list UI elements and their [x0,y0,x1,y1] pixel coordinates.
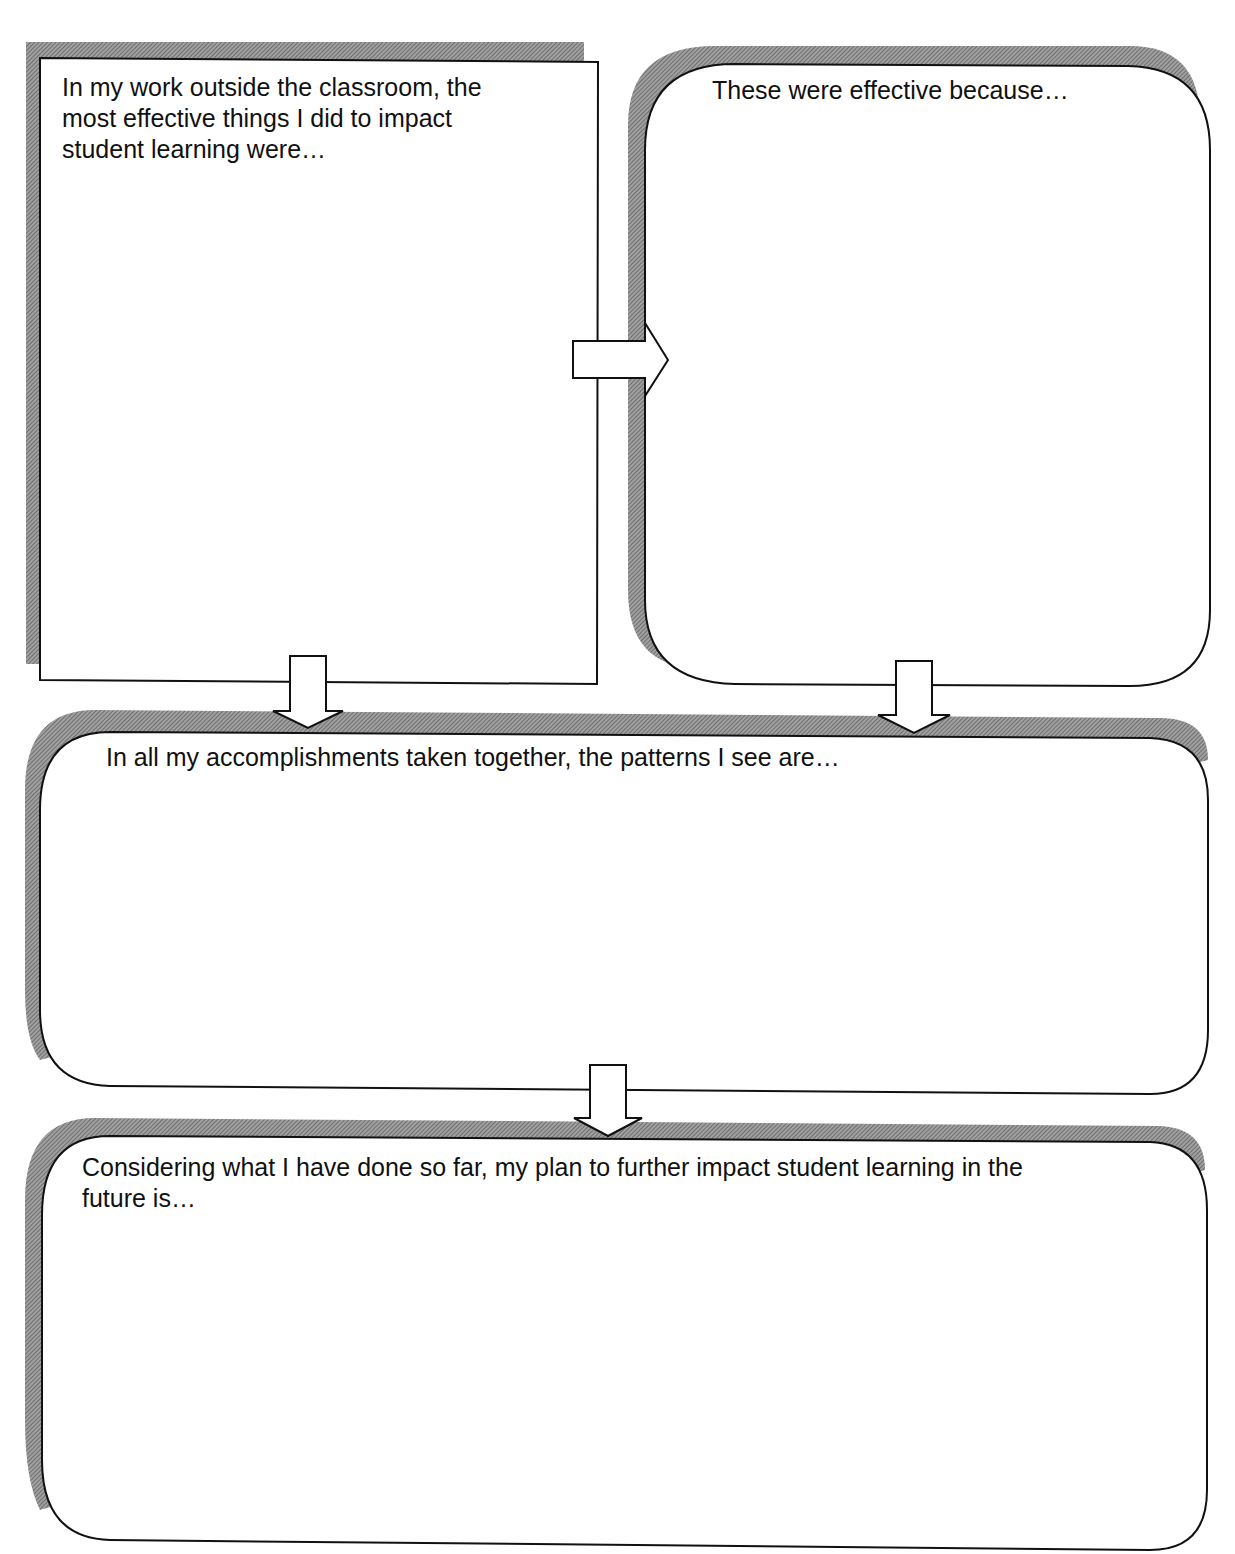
prompt-patterns: In all my accomplishments taken together… [106,742,1186,773]
prompt-future-plan: Considering what I have done so far, my … [82,1152,1192,1214]
response-effective-things[interactable] [62,180,586,664]
prompt-effective-things: In my work outside the classroom, the mo… [62,72,582,165]
response-why-effective[interactable] [670,115,1194,669]
prompt-why-effective: These were effective because… [712,75,1192,106]
response-future-plan[interactable] [70,1215,1194,1529]
response-patterns[interactable] [70,780,1194,1074]
